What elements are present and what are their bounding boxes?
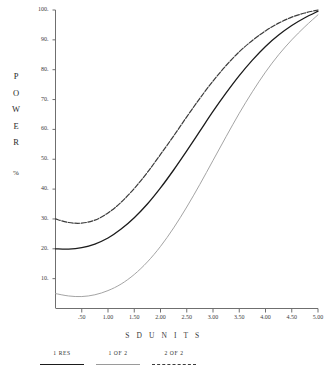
y-tick-label: 60. <box>23 125 49 131</box>
legend-item[interactable]: 2 OF 2 <box>152 350 196 369</box>
x-tick-label: 2.50 <box>174 314 200 320</box>
y-tick-label: 30. <box>23 215 49 221</box>
y-tick-label: 80. <box>23 66 49 72</box>
y-axis-unit-percent: % <box>6 165 26 182</box>
y-tick-label: 70. <box>23 96 49 102</box>
y-tick-label: 20. <box>23 245 49 251</box>
y-tick-label: 10. <box>23 275 49 281</box>
x-tick-label: 3.00 <box>200 314 226 320</box>
legend-item[interactable]: 1 OF 2 <box>96 350 140 369</box>
series-line <box>56 10 319 223</box>
series-line <box>56 15 319 297</box>
y-tick-label: 50. <box>23 155 49 161</box>
legend-item-swatch <box>40 364 84 369</box>
x-axis-title: S D U N I T S <box>0 331 327 340</box>
x-tick-label: 4.00 <box>253 314 279 320</box>
y-tick-label: 90. <box>23 36 49 42</box>
data-curves <box>56 10 319 297</box>
legend-item-label: 1 RES <box>40 350 84 356</box>
plot-area <box>0 0 327 380</box>
legend-item-swatch <box>96 364 140 369</box>
power-curve-figure: P O W E R % S D U N I T S 10.20.30.40.50… <box>0 0 327 380</box>
y-axis-title-letter: R <box>6 134 26 151</box>
x-tick-label: 2.00 <box>148 314 174 320</box>
y-tick-label: 100. <box>23 6 49 12</box>
legend-item-label: 2 OF 2 <box>152 350 196 356</box>
x-tick-label: 5.00 <box>305 314 327 320</box>
y-axis-title-letter: W <box>6 101 26 118</box>
y-tick-label: 40. <box>23 185 49 191</box>
x-tick-label: .50 <box>69 314 95 320</box>
x-tick-label: 1.50 <box>121 314 147 320</box>
series-line <box>56 11 319 249</box>
x-tick-label: 1.00 <box>95 314 121 320</box>
x-tick-label: 4.50 <box>279 314 305 320</box>
legend-item[interactable]: 1 RES <box>40 350 84 369</box>
x-tick-label: 3.50 <box>226 314 252 320</box>
legend-item-label: 1 OF 2 <box>96 350 140 356</box>
legend-item-swatch <box>152 364 196 369</box>
